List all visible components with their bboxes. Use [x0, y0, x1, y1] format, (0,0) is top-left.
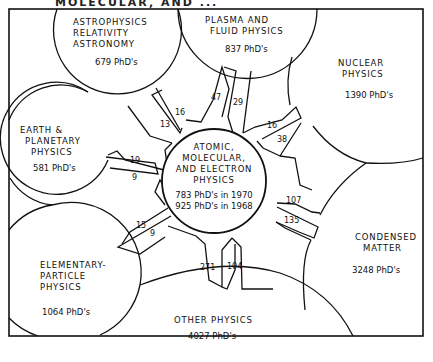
- plasma-line-1: PLASMA AND: [205, 15, 269, 25]
- other-physics-arc: [140, 266, 353, 336]
- center-stat-1970: 783 PhD's in 1970: [175, 190, 253, 200]
- flow-plasma-in: 47: [211, 93, 221, 102]
- flow-other-out: 104: [227, 262, 242, 271]
- flow-condensed-in: 107: [286, 196, 301, 205]
- field-earth: EARTH & PLANETARY PHYSICS 581 PhD's: [20, 125, 81, 173]
- field-plasma: PLASMA AND FLUID PHYSICS 837 PhD's: [205, 15, 284, 54]
- earth-line-3: PHYSICS: [31, 147, 73, 157]
- plasma-line-2: FLUID PHYSICS: [210, 26, 284, 36]
- flow-astro-in: 13: [160, 120, 170, 129]
- flow-nuclear-out: 38: [277, 135, 287, 144]
- nuclear-line-2: PHYSICS: [342, 69, 384, 79]
- center-line-2: MOLECULAR,: [182, 153, 246, 163]
- physics-phd-flow-diagram: MOLECULAR, AND ...: [0, 0, 433, 362]
- other-phds: 4027 PhD's: [188, 331, 237, 341]
- field-astro: ASTROPHYSICS RELATIVITY ASTRONOMY 679 Ph…: [73, 17, 148, 67]
- center-stat-1968: 925 PhD's in 1968: [175, 201, 253, 211]
- flow-astro-out: 16: [175, 108, 185, 117]
- nuclear-phds: 1390 PhD's: [345, 90, 394, 100]
- flow-earth-out: 9: [132, 173, 137, 182]
- elementary-phds: 1064 PhD's: [42, 307, 91, 317]
- flow-plasma-out: 29: [233, 98, 243, 107]
- condensed-line-1: CONDENSED: [355, 232, 417, 242]
- field-elementary: ELEMENTARY- PARTICLE PHYSICS 1064 PhD's: [40, 260, 106, 317]
- flow-other-in: 271: [200, 263, 215, 272]
- center-line-4: PHYSICS: [193, 175, 235, 185]
- plasma-phds: 837 PhD's: [225, 44, 268, 54]
- elementary-line-3: PHYSICS: [40, 282, 82, 292]
- elementary-line-1: ELEMENTARY-: [40, 260, 106, 270]
- field-other: OTHER PHYSICS 4027 PhD's: [174, 315, 253, 341]
- flow-elementary-in: 15: [136, 221, 146, 230]
- condensed-line-2: MATTER: [363, 243, 402, 253]
- diagram-title-fragment: MOLECULAR, AND ...: [55, 0, 218, 9]
- astro-line-3: ASTRONOMY: [73, 39, 135, 49]
- other-line-1: OTHER PHYSICS: [174, 315, 253, 325]
- field-nuclear: NUCLEAR PHYSICS 1390 PhD's: [338, 58, 394, 100]
- elementary-line-2: PARTICLE: [40, 271, 86, 281]
- condensed-phds: 3248 PhD's: [352, 265, 401, 275]
- flow-elementary-out: 9: [150, 229, 155, 238]
- flow-condensed-out: 135: [284, 216, 299, 225]
- center-line-3: AND ELECTRON: [176, 164, 253, 174]
- earth-line-1: EARTH &: [20, 125, 63, 135]
- astro-phds: 679 PhD's: [95, 57, 138, 67]
- center-line-1: ATOMIC,: [193, 142, 234, 152]
- astro-line-1: ASTROPHYSICS: [73, 17, 148, 27]
- astro-line-2: RELATIVITY: [73, 28, 129, 38]
- nuclear-line-1: NUCLEAR: [338, 58, 384, 68]
- flow-nuclear-in: 16: [267, 121, 277, 130]
- earth-line-2: PLANETARY: [25, 136, 81, 146]
- flow-earth-in: 19: [130, 156, 140, 165]
- field-condensed: CONDENSED MATTER 3248 PhD's: [352, 232, 417, 275]
- nuclear-condensed-arc: [366, 158, 423, 163]
- earth-phds: 581 PhD's: [33, 163, 76, 173]
